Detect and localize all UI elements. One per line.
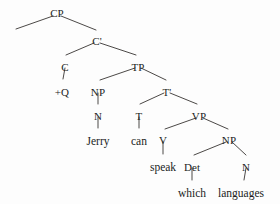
node-c-bar: C' xyxy=(92,36,102,47)
branch-cbar-c xyxy=(66,43,94,55)
terminal-can: can xyxy=(131,136,147,148)
branch-vp-np xyxy=(203,118,228,129)
terminal-which: which xyxy=(178,188,206,200)
branch-tp-tbar xyxy=(141,68,166,80)
node-t-bar: T' xyxy=(163,87,172,98)
branch-cbar-tp xyxy=(100,43,136,55)
terminal-speak: speak xyxy=(150,162,176,174)
node-cp: CP xyxy=(50,8,64,19)
node-q-feature: +Q xyxy=(55,87,69,98)
node-det: Det xyxy=(184,162,200,173)
node-vp: VP xyxy=(192,111,206,122)
node-n-subject: N xyxy=(94,111,102,122)
branch-tbar-vp xyxy=(170,93,197,104)
syntax-tree-figure: CP C' C +Q TP NP N T' T VP V NP Det N Je… xyxy=(0,0,280,204)
node-np-object: NP xyxy=(222,135,236,146)
terminal-jerry: Jerry xyxy=(87,136,110,148)
branch-cp-cbar xyxy=(61,16,96,30)
node-tp: TP xyxy=(131,62,144,73)
node-v: V xyxy=(159,135,167,146)
tree-branch-lines xyxy=(0,0,280,204)
branch-cp-spec xyxy=(16,16,53,29)
branch-tbar-t xyxy=(140,93,164,104)
terminal-languages: languages xyxy=(218,188,264,200)
node-np-subject: NP xyxy=(91,87,105,98)
node-c: C xyxy=(61,62,68,73)
branch-tp-np xyxy=(100,68,135,80)
node-t: T xyxy=(136,111,143,122)
node-n-object: N xyxy=(242,162,250,173)
